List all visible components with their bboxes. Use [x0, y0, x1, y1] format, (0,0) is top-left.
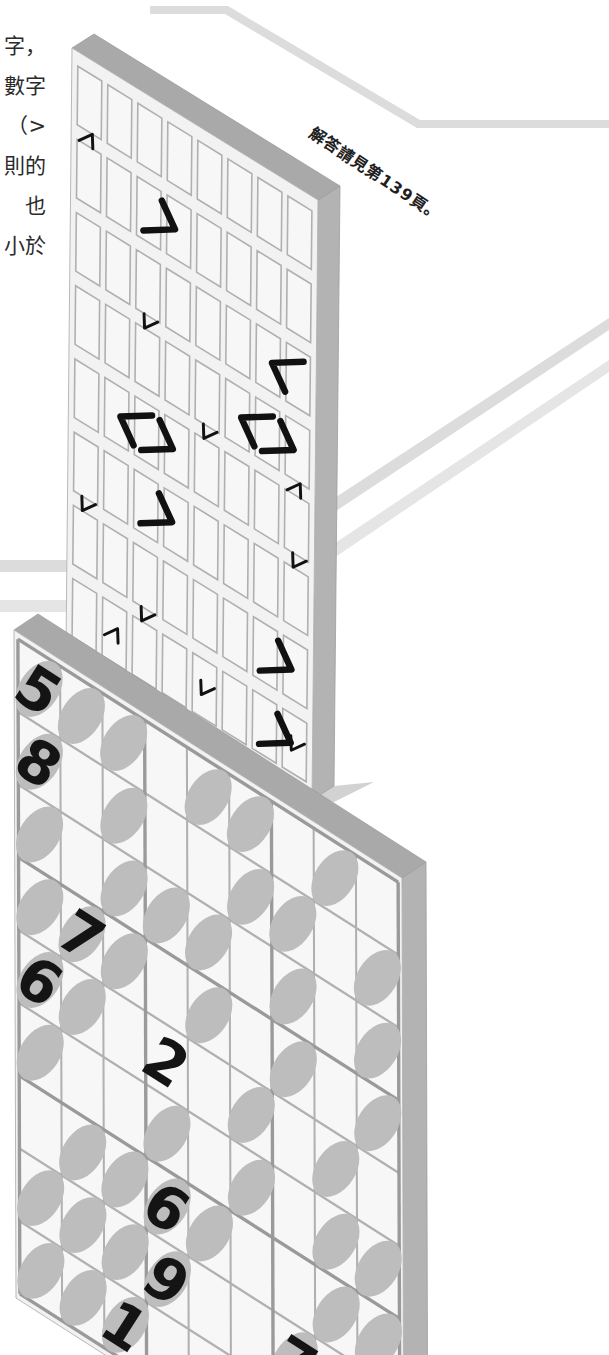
- grid-cell[interactable]: [272, 802, 314, 900]
- futoshiki-board[interactable]: [0, 0, 609, 1355]
- grid-cell[interactable]: [104, 1130, 146, 1228]
- grid-cell[interactable]: [145, 866, 187, 964]
- grid-cell[interactable]: [104, 1276, 146, 1355]
- grid-cell[interactable]: [163, 561, 188, 634]
- grid-cell[interactable]: [357, 1001, 399, 1099]
- grid-cells[interactable]: [18, 640, 400, 1355]
- grid-cell[interactable]: [62, 1176, 104, 1274]
- grid-cell[interactable]: [282, 708, 307, 781]
- grid-cell[interactable]: [134, 469, 159, 542]
- grid-cell[interactable]: [229, 775, 271, 873]
- grid-cell[interactable]: [188, 966, 230, 1064]
- grid-cell[interactable]: [62, 1249, 104, 1347]
- grid-cell[interactable]: [222, 671, 247, 744]
- grid-cell[interactable]: [194, 433, 219, 506]
- grid-cell[interactable]: [230, 920, 272, 1018]
- grid-cell[interactable]: [165, 341, 190, 414]
- grid-cell[interactable]: [188, 893, 230, 991]
- grid-cell[interactable]: [164, 415, 189, 488]
- grid-cell[interactable]: [284, 562, 309, 635]
- grid-cell[interactable]: [74, 432, 99, 505]
- grid-cell[interactable]: [188, 1039, 230, 1137]
- grid-cell[interactable]: [105, 304, 130, 377]
- grid-cell[interactable]: [189, 1257, 231, 1355]
- grid-cell[interactable]: [104, 451, 129, 524]
- grid-cell[interactable]: [230, 848, 272, 946]
- grid-cell[interactable]: [225, 379, 250, 452]
- grid-cell[interactable]: [273, 1311, 315, 1355]
- grid-cell[interactable]: [284, 489, 309, 562]
- grid-cell[interactable]: [132, 616, 157, 689]
- grid-cell[interactable]: [314, 902, 356, 1000]
- grid-cell[interactable]: [287, 196, 312, 269]
- grid-cell[interactable]: [137, 103, 162, 176]
- grid-cell[interactable]: [314, 829, 356, 927]
- grid-cell[interactable]: [73, 505, 98, 578]
- grid-cell[interactable]: [167, 122, 192, 195]
- grid-cell[interactable]: [20, 1076, 62, 1174]
- grid-cell[interactable]: [61, 812, 103, 910]
- grid-cell[interactable]: [226, 305, 251, 378]
- grid-cell[interactable]: [137, 176, 162, 249]
- grid-cell[interactable]: [147, 1303, 189, 1355]
- grid-cell[interactable]: [285, 416, 310, 489]
- grid-cell[interactable]: [20, 1222, 62, 1320]
- sudoku-board[interactable]: 5876269271: [0, 0, 609, 1355]
- grid-cell[interactable]: [133, 542, 158, 615]
- grid-cell[interactable]: [189, 1330, 231, 1355]
- grid-cell[interactable]: [103, 912, 145, 1010]
- grid-cell[interactable]: [357, 1074, 399, 1172]
- grid-cell[interactable]: [273, 1166, 315, 1264]
- grid-cell[interactable]: [257, 177, 282, 250]
- grid-cell[interactable]: [272, 875, 314, 973]
- grid-cell[interactable]: [103, 839, 145, 937]
- grid-cell[interactable]: [19, 1004, 61, 1102]
- grid-cell[interactable]: [146, 1230, 188, 1328]
- grid-cell[interactable]: [255, 397, 280, 470]
- grid-cell[interactable]: [227, 232, 252, 305]
- grid-cell[interactable]: [103, 694, 145, 792]
- grid-cell[interactable]: [62, 1031, 104, 1129]
- grid-cell[interactable]: [134, 396, 159, 469]
- grid-cell[interactable]: [74, 359, 99, 432]
- grid-cell[interactable]: [72, 579, 97, 652]
- grid-cell[interactable]: [76, 213, 101, 286]
- grid-cells[interactable]: [72, 66, 312, 782]
- grid-cell[interactable]: [104, 985, 146, 1083]
- grid-cell[interactable]: [76, 139, 101, 212]
- grid-cell[interactable]: [107, 85, 132, 158]
- grid-cell[interactable]: [135, 323, 160, 396]
- grid-cell[interactable]: [356, 929, 398, 1027]
- grid-cell[interactable]: [102, 597, 127, 670]
- grid-cell[interactable]: [272, 947, 314, 1045]
- grid-cell[interactable]: [20, 1149, 62, 1247]
- grid-cell[interactable]: [104, 1058, 146, 1156]
- grid-cell[interactable]: [287, 269, 312, 342]
- grid-cell[interactable]: [187, 748, 229, 846]
- grid-cell[interactable]: [272, 1020, 314, 1118]
- grid-cell[interactable]: [315, 1265, 357, 1355]
- grid-cell[interactable]: [60, 667, 102, 765]
- grid-cell[interactable]: [77, 66, 102, 139]
- grid-cell[interactable]: [75, 286, 100, 359]
- grid-cell[interactable]: [166, 268, 191, 341]
- grid-cell[interactable]: [256, 324, 281, 397]
- grid-cell[interactable]: [19, 785, 61, 883]
- grid-cell[interactable]: [253, 617, 278, 690]
- grid-cell[interactable]: [283, 635, 308, 708]
- grid-cell[interactable]: [62, 1103, 104, 1201]
- grid-cell[interactable]: [230, 993, 272, 1091]
- grid-cell[interactable]: [103, 767, 145, 865]
- grid-cell[interactable]: [273, 1238, 315, 1336]
- grid-cell[interactable]: [197, 140, 222, 213]
- grid-cell[interactable]: [224, 452, 249, 525]
- grid-cell[interactable]: [164, 488, 189, 561]
- grid-cell[interactable]: [357, 1147, 399, 1245]
- grid-cell[interactable]: [357, 1220, 399, 1318]
- grid-cell[interactable]: [146, 939, 188, 1037]
- grid-cell[interactable]: [162, 634, 187, 707]
- grid-cell[interactable]: [146, 1085, 188, 1183]
- grid-cell[interactable]: [195, 360, 220, 433]
- grid-cell[interactable]: [61, 885, 103, 983]
- grid-cell[interactable]: [145, 721, 187, 819]
